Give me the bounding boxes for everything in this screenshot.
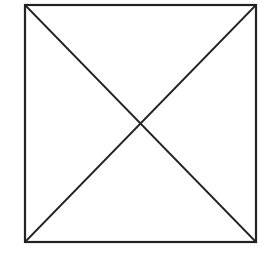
diagram-canvas	[0, 0, 277, 257]
square-diagram	[0, 0, 277, 257]
